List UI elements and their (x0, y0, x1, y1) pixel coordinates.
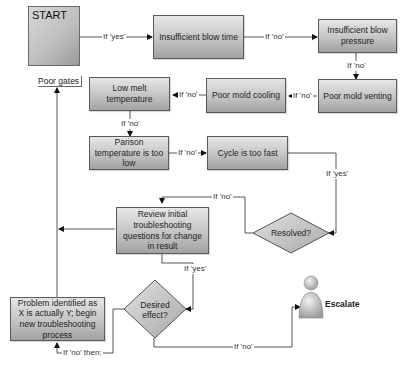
edge-label: If 'yes' (325, 169, 349, 179)
flowchart-canvas: START Poor gates Insufficient blow time … (0, 0, 408, 370)
node-label: Insufficient blow time (159, 32, 238, 43)
node-poor-mold-cooling: Poor mold cooling (206, 78, 286, 113)
node-cycle-too-fast: Cycle is too fast (207, 136, 288, 170)
start-node: START (28, 6, 80, 66)
decision-resolved: Resolved? (258, 228, 324, 238)
node-parison-temperature-too-low: Parison temperature is too low (89, 136, 169, 170)
start-caption: Poor gates (38, 76, 82, 87)
edge-label: If 'no' (212, 192, 233, 202)
node-label: Problem identified as X is actually Y; b… (15, 298, 100, 341)
edge-label: If 'no' (233, 342, 254, 352)
edge-label: If 'no' (178, 90, 199, 100)
edge-label: If 'no' (120, 119, 141, 129)
node-label: Parison temperature is too low (94, 137, 164, 169)
edge-label: If 'no' (346, 61, 367, 71)
node-label: Poor mold venting (323, 91, 392, 102)
person-icon (299, 276, 323, 318)
node-label: Poor mold cooling (212, 90, 280, 101)
edge-label: If 'yes' (102, 32, 126, 42)
edge-label: If 'no' then: (62, 348, 103, 358)
node-poor-mold-venting: Poor mold venting (318, 79, 397, 113)
node-review-initial-questions: Review initial troubleshooting questions… (116, 207, 209, 254)
start-title: START (32, 9, 67, 21)
edge-label: If 'no' (264, 32, 285, 42)
edge-label: If 'yes' (183, 264, 207, 274)
edge-label: If 'no' (177, 148, 198, 158)
node-problem-identified: Problem identified as X is actually Y; b… (10, 297, 105, 341)
escalate-label: Escalate (325, 299, 360, 309)
node-label: Cycle is too fast (218, 148, 278, 159)
decision-desired-effect: Desired effect? (132, 300, 178, 320)
node-label: Low melt temperature (94, 83, 165, 104)
node-label: Review initial troubleshooting questions… (121, 209, 204, 252)
node-low-melt-temperature: Low melt temperature (89, 77, 170, 111)
node-insufficient-blow-pressure: Insufficient blow pressure (318, 19, 397, 53)
node-insufficient-blow-time: Insufficient blow time (153, 15, 244, 59)
node-label: Insufficient blow pressure (323, 25, 392, 46)
edge-label: If 'no' (292, 91, 313, 101)
